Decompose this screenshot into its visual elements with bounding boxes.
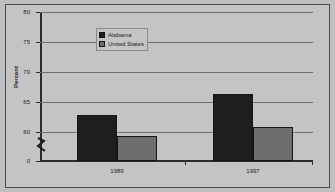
x-tick-mark-end (312, 162, 313, 165)
bar-united-states-1997 (253, 127, 293, 161)
y-tick-label-70: 70 (23, 69, 30, 75)
y-tick-0: 0 (36, 161, 40, 162)
chart-legend: Alabama United States (96, 28, 148, 51)
y-tick-label-60: 60 (23, 129, 30, 135)
y-tick-70: 70 (36, 72, 40, 73)
gridline-65 (40, 102, 313, 103)
legend-swatch-alabama (99, 32, 105, 38)
legend-swatch-united-states (99, 41, 105, 47)
axis-break-icon (35, 137, 48, 153)
bar-united-states-1989 (117, 136, 157, 161)
bar-alabama-1997 (213, 94, 253, 161)
legend-item-alabama: Alabama (99, 30, 144, 39)
chart-figure: Percent 80 75 70 65 60 0 (0, 0, 335, 192)
gridline-75 (40, 42, 313, 43)
bar-alabama-1989 (77, 115, 117, 161)
y-tick-label-0: 0 (27, 158, 30, 164)
x-tick-mark-mid (185, 162, 186, 165)
gridline-70 (40, 72, 313, 73)
y-tick-65: 65 (36, 102, 40, 103)
plot-area: 80 75 70 65 60 0 (40, 12, 313, 162)
y-tick-label-80: 80 (23, 9, 30, 15)
y-tick-label-75: 75 (23, 39, 30, 45)
y-tick-60: 60 (36, 132, 40, 133)
gridline-80 (40, 12, 313, 13)
y-tick-75: 75 (36, 42, 40, 43)
legend-label-alabama: Alabama (108, 32, 132, 38)
y-tick-80: 80 (36, 12, 40, 13)
x-tick-label-1997: 1997 (246, 168, 259, 174)
x-tick-label-1989: 1989 (110, 168, 123, 174)
legend-item-united-states: United States (99, 39, 144, 48)
y-axis-title: Percent (13, 66, 19, 88)
legend-label-united-states: United States (108, 41, 144, 47)
y-tick-label-65: 65 (23, 99, 30, 105)
